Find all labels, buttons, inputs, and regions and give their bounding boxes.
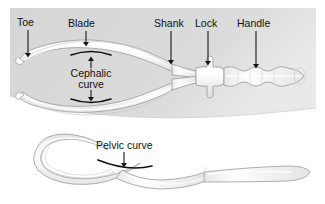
diagram-canvas: [0, 0, 325, 204]
label-blade: Blade: [68, 18, 95, 29]
label-cephalic-curve-line2: curve: [66, 79, 116, 90]
label-shank: Shank: [154, 18, 184, 29]
label-toe: Toe: [17, 17, 34, 28]
label-lock: Lock: [195, 18, 217, 29]
label-pelvic-curve: Pelvic curve: [96, 140, 153, 151]
label-handle: Handle: [237, 18, 270, 29]
forceps-diagram: Toe Blade Shank Lock Handle Cephalic cur…: [0, 0, 325, 204]
